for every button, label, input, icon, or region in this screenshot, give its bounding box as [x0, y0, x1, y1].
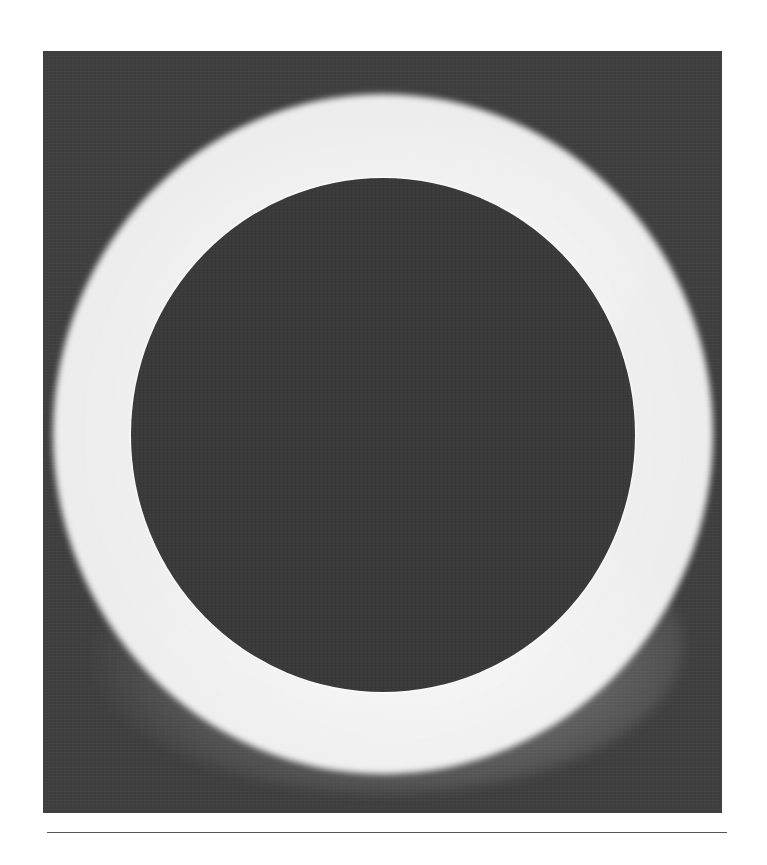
moon-texture — [131, 178, 635, 692]
horizontal-rule — [47, 832, 727, 833]
figure-caption — [0, 0, 1, 1]
moon-disk — [131, 178, 635, 692]
eclipse-illustration — [43, 51, 722, 813]
